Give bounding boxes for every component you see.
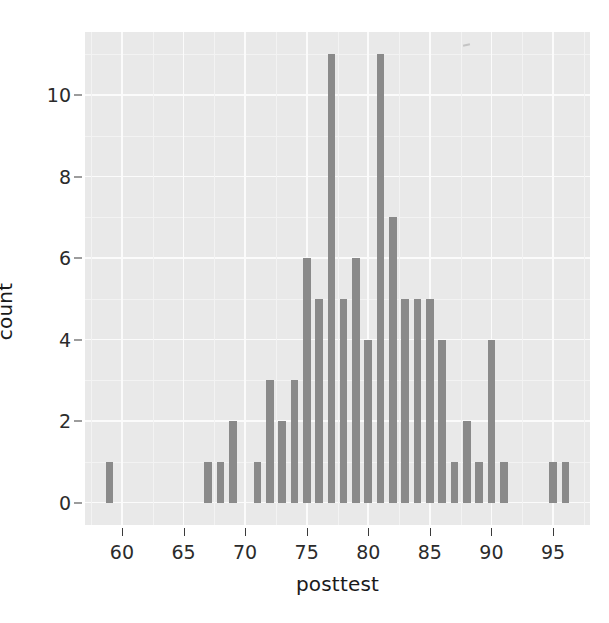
histogram-bar	[278, 421, 286, 502]
gridline-minor-x	[461, 32, 462, 525]
histogram-bar	[488, 340, 496, 503]
histogram-bar	[549, 462, 557, 503]
histogram-bar	[475, 462, 483, 503]
y-tick-label: 8	[59, 166, 71, 188]
x-tick-mark	[245, 528, 246, 536]
x-tick-label: 65	[171, 541, 195, 563]
histogram-bar	[229, 421, 237, 502]
histogram-bar	[291, 380, 299, 502]
y-tick-label: 6	[59, 247, 71, 269]
gridline-minor-x	[522, 32, 523, 525]
histogram-bar	[500, 462, 508, 503]
histogram-bar	[266, 380, 274, 502]
x-tick-mark	[307, 528, 308, 536]
histogram-bar	[389, 217, 397, 502]
y-tick-mark	[74, 176, 82, 177]
y-tick-mark	[74, 502, 82, 503]
x-tick-label: 85	[418, 541, 442, 563]
histogram-bar	[451, 462, 459, 503]
x-axis-title: posttest	[85, 572, 590, 596]
x-tick-mark	[368, 528, 369, 536]
histogram-bar	[463, 421, 471, 502]
histogram-bar	[340, 299, 348, 503]
x-tick-label: 70	[233, 541, 257, 563]
histogram-bar	[438, 340, 446, 503]
gridline-minor-x	[91, 32, 92, 525]
x-tick-mark	[553, 528, 554, 536]
histogram-bar	[562, 462, 570, 503]
gridline-minor-x	[584, 32, 585, 525]
x-axis: 6065707580859095	[0, 525, 609, 575]
gridline-minor-x	[276, 32, 277, 525]
x-tick-label: 75	[295, 541, 319, 563]
histogram-bar	[106, 462, 114, 503]
x-tick-mark	[122, 528, 123, 536]
y-tick-label: 4	[59, 329, 71, 351]
y-tick-label: 2	[59, 410, 71, 432]
histogram-bar	[401, 299, 409, 503]
gridline-minor-x	[338, 32, 339, 525]
x-tick-label: 60	[110, 541, 134, 563]
histogram-bar	[364, 340, 372, 503]
y-axis-title-label: count	[0, 283, 17, 340]
histogram-bar	[352, 258, 360, 502]
gridline-minor-x	[153, 32, 154, 525]
histogram-chart: 0246810 6065707580859095 count posttest	[0, 0, 609, 623]
gridline-minor-x	[399, 32, 400, 525]
x-tick-mark	[184, 528, 185, 536]
y-axis-title: count	[30, 0, 60, 623]
y-tick-mark	[74, 258, 82, 259]
y-tick-mark	[74, 421, 82, 422]
histogram-bar	[426, 299, 434, 503]
x-tick-label: 80	[356, 541, 380, 563]
histogram-bar	[377, 54, 385, 502]
gridline-major-x	[121, 32, 123, 525]
gridline-major-x	[244, 32, 246, 525]
histogram-bar	[217, 462, 225, 503]
x-tick-mark	[430, 528, 431, 536]
gridline-major-x	[552, 32, 554, 525]
plot-panel	[85, 32, 590, 525]
y-tick-mark	[74, 339, 82, 340]
x-axis-title-label: posttest	[296, 572, 379, 596]
histogram-bar	[303, 258, 311, 502]
image-artifact-speck	[463, 43, 470, 46]
histogram-bar	[204, 462, 212, 503]
y-tick-label: 0	[59, 492, 71, 514]
y-tick-mark	[74, 95, 82, 96]
histogram-bar	[254, 462, 262, 503]
histogram-bar	[414, 299, 422, 503]
histogram-bar	[328, 54, 336, 502]
x-tick-mark	[491, 528, 492, 536]
histogram-bar	[315, 299, 323, 503]
gridline-major-x	[183, 32, 185, 525]
x-tick-label: 90	[479, 541, 503, 563]
gridline-minor-x	[214, 32, 215, 525]
x-tick-label: 95	[541, 541, 565, 563]
